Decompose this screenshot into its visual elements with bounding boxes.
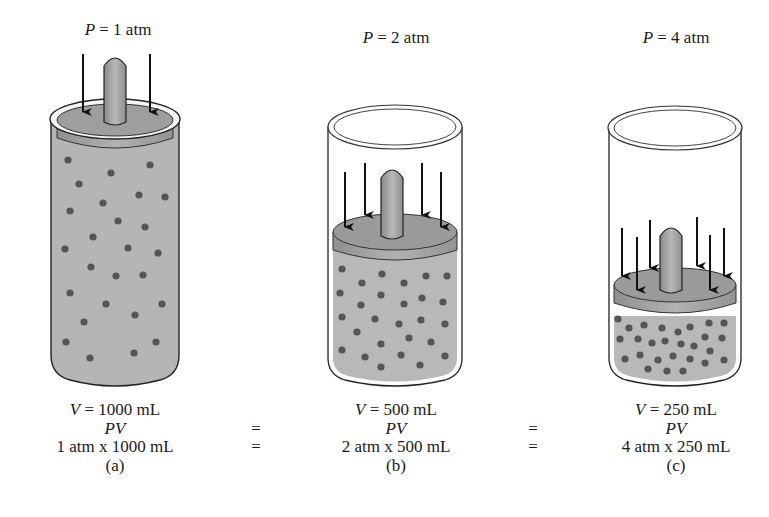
gas-region-b [333,250,457,382]
caption-b: (b) [386,456,406,476]
piston-rod-c [660,228,682,293]
equals-sign: = [251,419,261,439]
product-label-a: 1 atm x 1000 mL [56,437,173,457]
equals-sign: = [528,437,538,457]
volume-label-c: V = 250 mL [635,400,717,420]
caption-a: (a) [106,456,125,476]
piston-rod-a [104,58,126,125]
volume-label-a: V = 1000 mL [70,400,160,420]
pv-label-a: PV [105,419,126,439]
cylinder-b [328,105,462,386]
pressure-label-a: P = 1 atm [85,20,152,40]
pressure-label-b: P = 2 atm [363,28,430,48]
equals-sign: = [528,419,538,439]
product-label-c: 4 atm x 250 mL [622,437,731,457]
gas-region-c [614,316,736,382]
equals-sign: = [251,437,261,457]
volume-label-b: V = 500 mL [355,400,437,420]
product-label-b: 2 atm x 500 mL [342,437,451,457]
pv-label-b: PV [386,419,407,439]
cylinder-c [608,106,742,386]
piston-rod-b [381,170,403,239]
caption-c: (c) [667,456,686,476]
cylinder-a [50,54,180,386]
pressure-label-c: P = 4 atm [643,28,710,48]
pv-label-c: PV [666,419,687,439]
